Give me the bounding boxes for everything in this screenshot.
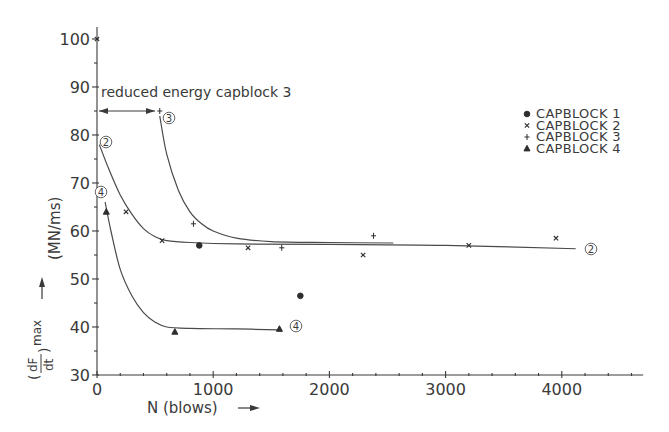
y-axis-arrow-icon [39, 277, 45, 299]
legend: CAPBLOCK 1CAPBLOCK 2CAPBLOCK 3CAPBLOCK 4 [524, 106, 621, 156]
curve-number-label: 4 [95, 186, 107, 198]
plus-marker [191, 221, 196, 227]
plus-marker [279, 245, 284, 251]
y-tick-label: 80 [70, 126, 90, 145]
data-points: 23424 [95, 37, 597, 334]
x-legend-icon [525, 123, 529, 127]
y-tick-label: 60 [70, 222, 90, 241]
fit-curves [99, 116, 575, 330]
x-axis-arrow-icon [238, 405, 260, 411]
annotations: reduced energy capblock 3 [99, 84, 291, 114]
y-tick-label: 70 [70, 174, 90, 193]
x-tick-label: 4000 [541, 380, 582, 399]
curve-number-label: 2 [585, 243, 597, 255]
svg-text:3: 3 [166, 113, 172, 124]
x-marker [554, 236, 558, 240]
annotation-reduced-energy: reduced energy capblock 3 [101, 84, 291, 100]
y-axis-paren-open: ( [26, 375, 42, 380]
filled-circle-marker [196, 243, 202, 249]
svg-text:2: 2 [103, 137, 109, 148]
y-tick-label: 50 [70, 270, 90, 289]
y-axis-denominator: dt [42, 358, 56, 371]
x-tick-label: 1000 [193, 380, 234, 399]
y-tick-label: 90 [70, 78, 90, 97]
filled-triangle-marker [172, 329, 178, 335]
x-axis-title: N (blows) [147, 399, 218, 417]
y-axis-paren-close: ) [36, 348, 52, 353]
plus-marker [371, 233, 376, 239]
fit-curve-4 [105, 202, 279, 330]
curve-number-label: 4 [290, 320, 302, 332]
chart-canvas: 3040506070809010001000200030004000 23424… [0, 0, 669, 432]
y-tick-label: 100 [59, 30, 90, 49]
x-marker [124, 210, 128, 214]
x-marker [246, 246, 250, 250]
y-axis-numerator: dF [26, 357, 40, 372]
filled-triangle-legend-icon [524, 145, 530, 151]
plus-legend-icon [525, 134, 530, 140]
legend-item: CAPBLOCK 4 [524, 141, 621, 156]
y-axis-derivative-label: ( dF dt ) max [26, 320, 56, 380]
filled-triangle-marker [276, 326, 282, 332]
svg-text:2: 2 [588, 244, 594, 255]
svg-text:4: 4 [98, 187, 104, 198]
fit-curve-2 [99, 145, 575, 249]
curve-number-label: 3 [163, 112, 175, 124]
legend-label: CAPBLOCK 4 [536, 141, 621, 156]
svg-text:4: 4 [293, 321, 299, 332]
axes: 3040506070809010001000200030004000 [59, 27, 643, 399]
y-tick-label: 30 [70, 366, 90, 385]
x-tick-label: 2000 [309, 380, 350, 399]
double-arrow-icon [99, 108, 155, 114]
y-axis-units: (MN/ms) [46, 197, 64, 260]
y-tick-label: 40 [70, 318, 90, 337]
curve-number-label: 2 [100, 136, 112, 148]
y-axis-subscript: max [30, 320, 44, 346]
filled-triangle-marker [103, 209, 109, 215]
x-tick-label: 0 [92, 380, 102, 399]
filled-circle-marker [298, 293, 304, 299]
plus-marker [157, 108, 162, 114]
x-tick-label: 3000 [425, 380, 466, 399]
filled-circle-legend-icon [524, 111, 530, 117]
x-marker [361, 253, 365, 257]
y-axis-title: (MN/ms) [46, 197, 64, 260]
